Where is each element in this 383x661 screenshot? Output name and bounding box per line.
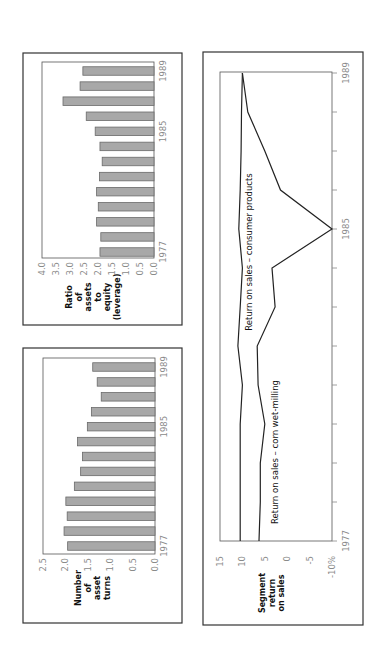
- asset-turns-x-tick: 1985: [159, 416, 169, 438]
- leverage-bar-1984: [100, 142, 154, 151]
- asset-turns-axis-title-line: of: [84, 583, 93, 592]
- asset-turns-bar-1987: [101, 393, 155, 402]
- asset-turns-y-ticks: 2.52.01.51.00.50.0: [38, 558, 160, 572]
- leverage-axis-title-line: to: [94, 292, 103, 302]
- leverage-x-tick: 1985: [158, 121, 168, 143]
- return-on-sales-x-ticks: 197719851989: [341, 62, 351, 552]
- leverage-bar-1989: [83, 67, 154, 76]
- asset-turns-x-tick: 1977: [159, 535, 169, 557]
- return-on-sales-y-tick: -10%: [327, 556, 337, 578]
- corn-wet-milling-label: Return on sales – corn wet-milling: [270, 380, 280, 524]
- return-on-sales-axis-title: Segmentreturnon sales: [258, 573, 286, 613]
- asset-turns-bar-1980: [66, 497, 155, 506]
- leverage-y-ticks: 4.03.53.02.52.01.51.00.50.0: [37, 262, 159, 276]
- return-on-sales-x-tick: 1977: [341, 530, 351, 552]
- asset-turns-chart: 2.52.01.51.00.50.0 197719851989 Numberof…: [23, 348, 182, 623]
- leverage-axis-title-line: assets: [84, 282, 93, 311]
- leverage-y-tick: 1.0: [121, 262, 131, 276]
- return-on-sales-axis-title-line: Segment: [258, 573, 267, 613]
- leverage-bar-1987: [63, 97, 154, 106]
- asset-turns-bar-1984: [77, 437, 155, 446]
- asset-turns-y-tick: 0.0: [150, 558, 160, 572]
- asset-turns-bar-1982: [81, 467, 155, 476]
- return-on-sales-y-ticks: 151050-5-10%: [215, 556, 337, 578]
- leverage-axis-title-line: equity: [103, 282, 112, 311]
- leverage-y-tick: 3.0: [65, 262, 75, 276]
- asset-turns-bar-1985: [87, 422, 155, 431]
- leverage-bar-1977: [100, 248, 154, 257]
- asset-turns-bar-1989: [93, 363, 155, 372]
- return-on-sales-y-tick: 10: [237, 556, 247, 567]
- leverage-x-ticks: 197719851989: [158, 60, 168, 263]
- leverage-bar-1986: [86, 112, 154, 121]
- leverage-bar-1981: [97, 187, 154, 196]
- asset-turns-axis-title: Numberofassetturns: [74, 570, 112, 606]
- leverage-bar-1979: [97, 218, 154, 227]
- leverage-bar-1988: [80, 82, 154, 91]
- leverage-bar-1983: [102, 157, 154, 166]
- asset-turns-axis-title-line: asset: [93, 576, 102, 600]
- asset-turns-y-tick: 1.5: [83, 558, 93, 572]
- asset-turns-bar-1978: [64, 527, 155, 536]
- asset-turns-bar-1981: [74, 482, 155, 491]
- leverage-y-tick: 4.0: [37, 262, 47, 276]
- asset-turns-y-tick: 1.0: [105, 558, 115, 572]
- asset-turns-bar-1979: [67, 512, 155, 520]
- leverage-bar-1978: [101, 233, 154, 242]
- asset-turns-y-tick: 0.5: [128, 558, 138, 572]
- leverage-y-tick: 0.0: [149, 262, 159, 276]
- return-on-sales-x-tick: 1989: [341, 62, 351, 84]
- return-on-sales-chart: 151050-5-10% 197719851989 Segmentreturno…: [203, 52, 363, 625]
- asset-turns-x-ticks: 197719851989: [159, 356, 169, 557]
- asset-turns-axis-title-line: turns: [103, 576, 112, 600]
- chart-canvas: 4.03.53.02.52.01.51.00.50.0 197719851989…: [0, 0, 383, 661]
- leverage-y-tick: 3.5: [51, 262, 61, 276]
- return-on-sales-axis-title-line: on sales: [277, 574, 286, 611]
- asset-turns-bar-1983: [82, 452, 155, 461]
- leverage-bar-1982: [99, 172, 154, 181]
- return-on-sales-y-tick: -5: [305, 556, 315, 564]
- leverage-y-tick: 0.5: [135, 262, 145, 276]
- asset-turns-y-tick: 2.5: [38, 558, 48, 572]
- asset-turns-axis-title-line: Number: [74, 570, 83, 606]
- leverage-axis-title: Ratioofassetstoequity(leverage): [65, 274, 122, 321]
- leverage-axis-title-line: Ratio: [65, 285, 74, 309]
- return-on-sales-y-tick: 5: [260, 556, 270, 561]
- leverage-y-tick: 1.5: [107, 262, 117, 276]
- asset-turns-bar-1988: [97, 378, 155, 387]
- leverage-x-tick: 1977: [158, 241, 168, 263]
- leverage-chart: 4.03.53.02.52.01.51.00.50.0 197719851989…: [23, 53, 182, 325]
- leverage-bar-1980: [98, 203, 154, 212]
- return-on-sales-tick-marks: [332, 73, 337, 541]
- return-on-sales-axis-title-line: return: [268, 578, 277, 607]
- asset-turns-y-tick: 2.0: [60, 558, 70, 572]
- leverage-axis-title-line: (leverage): [113, 274, 122, 321]
- leverage-x-tick: 1989: [158, 60, 168, 82]
- leverage-bar-1985: [95, 127, 154, 136]
- asset-turns-bar-1977: [68, 542, 155, 551]
- asset-turns-bar-1986: [91, 408, 155, 417]
- consumer-products-label: Return on sales – consumer products: [244, 173, 254, 331]
- leverage-axis-title-line: of: [75, 292, 84, 301]
- return-on-sales-y-tick: 0: [282, 556, 292, 561]
- leverage-y-tick: 2.0: [93, 262, 103, 276]
- asset-turns-x-tick: 1989: [159, 356, 169, 378]
- return-on-sales-x-tick: 1985: [341, 218, 351, 240]
- return-on-sales-y-tick: 15: [215, 556, 225, 567]
- leverage-y-tick: 2.5: [79, 262, 89, 276]
